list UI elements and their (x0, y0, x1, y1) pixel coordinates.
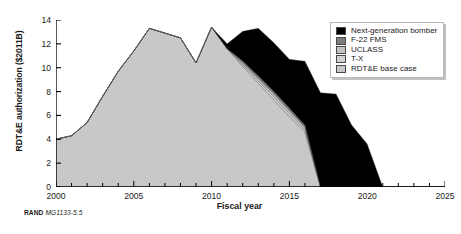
x-tick-label: 2000 (46, 191, 65, 201)
legend-item: UCLASS (336, 46, 437, 54)
legend-swatch-uclass (336, 46, 346, 54)
y-tick-label: 8 (46, 87, 51, 97)
x-tick-label: 2020 (358, 191, 377, 201)
y-tick-label: 6 (46, 110, 51, 120)
legend-swatch-f-22-fms (336, 37, 346, 45)
legend-item-label: RDT&E base case (351, 65, 417, 73)
x-tick-label: 2025 (435, 191, 454, 201)
legend-item-label: UCLASS (351, 46, 383, 54)
x-tick-label: 2005 (124, 191, 143, 201)
legend-item: Next-generation bomber (336, 27, 437, 35)
x-tick-label: 2010 (202, 191, 221, 201)
legend-item: T-X (336, 55, 437, 63)
legend-item: RDT&E base case (336, 65, 437, 73)
y-axis-title: RDT&E authorization ($2011B) (14, 6, 24, 176)
figure-stacked-area-chart: RDT&E authorization ($2011B) 02468101214… (0, 0, 461, 234)
legend-swatch-rdte-base-case (336, 65, 346, 73)
legend-item-label: T-X (351, 55, 363, 63)
legend-swatch-next-generation-bomber (336, 27, 346, 35)
chart-legend: Next-generation bomberF-22 FMSUCLASST-XR… (330, 22, 444, 78)
y-tick-label: 14 (41, 15, 51, 25)
caption-prefix: RAND (24, 209, 43, 216)
y-tick-label: 12 (41, 39, 51, 49)
legend-item: F-22 FMS (336, 36, 437, 44)
y-tick-label: 2 (46, 158, 51, 168)
x-tick-label: 2015 (280, 191, 299, 201)
legend-item-label: F-22 FMS (351, 36, 387, 44)
y-tick-label: 10 (41, 63, 51, 73)
legend-swatch-t-x (336, 55, 346, 63)
caption-id: MG1133-5.5 (45, 209, 82, 216)
legend-item-label: Next-generation bomber (351, 27, 437, 35)
y-tick-label: 4 (46, 134, 51, 144)
figure-caption: RAND MG1133-5.5 (24, 209, 83, 216)
